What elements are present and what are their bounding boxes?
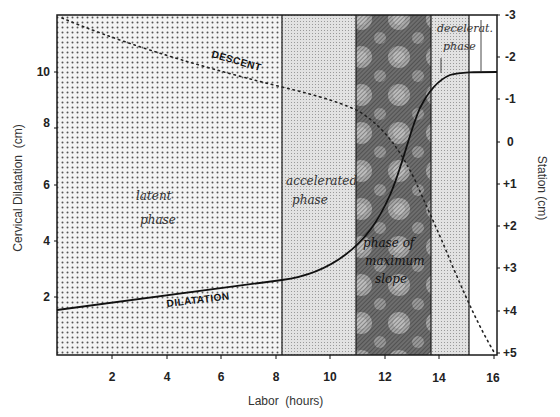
x-tick-label: 14 [432,371,446,385]
x-tick-label: 4 [164,370,171,384]
decelerated-label-line2: phase [443,40,476,53]
y2-tick-label: -1 [505,92,516,106]
x-tick-label: 10 [323,370,337,384]
y-tick-label: 6 [43,178,50,192]
y-axis-right: -3 -2 -1 0 +1 +2 +3 +4 +5 Station (cm) [497,8,549,360]
labor-curve-chart: DESCENT DILATATION latent phase accelera… [0,0,560,417]
max-slope-label-line2: maximum [365,254,425,268]
latent-label-line1: latent [136,189,172,203]
latent-label-line2: phase [140,213,176,227]
y-axis-left: 2 4 6 8 10 Cervical Dilatation (cm) [11,65,57,304]
x-tick-label: 6 [218,370,225,384]
x-tick-label: 12 [378,370,392,384]
decelerated-label-line1: decelerat. [437,22,493,35]
x-axis: 2 4 6 8 10 12 14 16 Labor (hours) [109,355,500,408]
x-axis-title: Labor (hours) [248,394,323,408]
x-tick-label: 16 [486,371,500,385]
accelerated-label-line1: accelerated [286,174,357,188]
y2-tick-label: 0 [507,135,514,149]
y2-tick-label: -2 [505,50,516,64]
y2-tick-label: +5 [503,346,517,360]
y-tick-label: 10 [37,65,51,79]
x-tick-label: 2 [109,370,116,384]
y-tick-label: 8 [43,116,50,130]
y2-tick-label: +4 [503,304,517,318]
y2-tick-label: +2 [503,219,517,233]
x-tick-label: 8 [273,370,280,384]
phase-bands [57,15,497,355]
y2-axis-title: Station (cm) [535,156,549,221]
y2-tick-label: -3 [505,8,516,22]
post-phase-band [469,15,497,355]
accelerated-label-line2: phase [292,193,328,207]
y2-tick-label: +3 [503,261,517,275]
deceleration-phase-band [431,15,469,355]
max-slope-label-line3: slope [375,272,407,286]
y-tick-label: 2 [43,290,50,304]
y-tick-label: 4 [43,234,50,248]
max-slope-label-line1: phase of [363,236,417,250]
y-axis-title: Cervical Dilatation (cm) [11,124,25,251]
y2-tick-label: +1 [503,177,517,191]
